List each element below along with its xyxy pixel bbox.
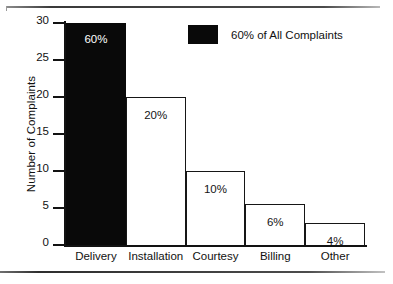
bar-billing[interactable]: 6% [245,204,305,245]
bar-other[interactable]: 4% [305,223,365,245]
y-tick: 10 [53,170,65,172]
bar-chart-figure: Number of Complaints 051015202530 60%20%… [0,0,393,284]
bar-delivery[interactable]: 60% [66,23,126,245]
y-tick-label: 10 [36,162,49,174]
y-tick: 15 [53,133,65,135]
legend-swatch-icon [188,25,218,44]
y-tick-label: 25 [36,51,49,63]
x-axis-label-other: Other [305,250,365,262]
x-axis-label-installation: Installation [126,250,186,262]
y-tick: 20 [53,96,65,98]
bar-value-label: 10% [187,183,245,195]
y-tick-label: 5 [43,199,49,211]
y-tick: 30 [53,22,65,24]
legend-label: 60% of All Complaints [231,29,343,41]
bar-courtesy[interactable]: 10% [186,171,246,245]
x-axis-label-billing: Billing [245,250,305,262]
plot-area: 60%20%10%6%4% [66,23,365,245]
x-axis-label-delivery: Delivery [66,250,126,262]
bar-value-label: 60% [67,33,125,45]
bar-value-label: 4% [306,235,364,247]
y-tick: 5 [53,207,65,209]
bar-value-label: 20% [127,109,185,121]
y-tick: 25 [53,59,65,61]
y-tick-label: 0 [43,236,49,248]
y-axis-title: Number of Complaints [25,59,37,209]
y-tick-label: 30 [36,14,49,26]
y-tick-label: 15 [36,125,49,137]
y-tick-label: 20 [36,88,49,100]
legend: 60% of All Complaints [188,25,343,44]
x-axis-label-courtesy: Courtesy [186,250,246,262]
bar-value-label: 6% [246,216,304,228]
y-tick: 0 [53,244,65,246]
bar-installation[interactable]: 20% [126,97,186,245]
